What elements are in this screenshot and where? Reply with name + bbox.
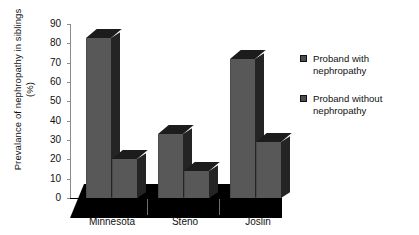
bar-front-face <box>184 171 210 198</box>
y-axis-line <box>70 24 71 199</box>
legend-label-line2: nephropathy <box>313 105 366 116</box>
x-axis-line <box>70 198 282 199</box>
y-tick-80: 80 <box>67 43 71 44</box>
legend-label: Proband with nephropathy <box>313 53 369 76</box>
y-tick-10: 10 <box>67 179 71 180</box>
bar-joslin-without-nephropathy <box>256 133 281 198</box>
legend-swatch-icon <box>300 55 307 62</box>
legend-label: Proband without nephropathy <box>313 93 382 116</box>
y-tick-50: 50 <box>67 101 71 102</box>
plot-area: 90 80 70 60 50 40 30 20 10 0 <box>70 20 282 202</box>
legend-label-line1: Proband without <box>313 93 382 104</box>
y-tick-60: 60 <box>67 82 71 83</box>
bar-side-face <box>137 153 146 198</box>
y-tick-40: 40 <box>67 121 71 122</box>
bar-steno-with-nephropathy <box>158 125 183 198</box>
legend-swatch-icon <box>300 95 307 102</box>
bar-side-face <box>281 136 290 198</box>
bar-front-face <box>86 38 112 198</box>
bar-minnesota-with-nephropathy <box>86 29 111 198</box>
y-tick-70: 70 <box>67 63 71 64</box>
x-label-joslin: Joslin <box>245 216 271 227</box>
y-axis-title: Prevalance of nephropathy in siblings (%… <box>12 5 35 175</box>
legend-item-proband-with-nephropathy[interactable]: Proband with nephropathy <box>300 53 418 76</box>
y-tick-30: 30 <box>67 140 71 141</box>
bar-chart-figure: Prevalance of nephropathy in siblings (%… <box>0 0 419 235</box>
x-tick-1 <box>147 199 148 215</box>
bar-steno-without-nephropathy <box>184 162 209 198</box>
bar-front-face <box>158 134 184 198</box>
legend-item-proband-without-nephropathy[interactable]: Proband without nephropathy <box>300 93 418 116</box>
x-label-minnesota: Minnesota <box>89 216 135 227</box>
bar-joslin-with-nephropathy <box>230 50 255 198</box>
bar-front-face <box>112 159 138 198</box>
bar-front-face <box>256 142 282 198</box>
chart-legend: Proband with nephropathy Proband without… <box>300 53 418 133</box>
y-tick-20: 20 <box>67 159 71 160</box>
legend-label-line1: Proband with <box>313 53 369 64</box>
bar-front-face <box>230 59 256 198</box>
x-tick-2 <box>219 199 220 215</box>
bar-minnesota-without-nephropathy <box>112 150 137 198</box>
y-tick-90: 90 <box>67 24 71 25</box>
legend-label-line2: nephropathy <box>313 65 366 76</box>
x-label-steno: Steno <box>172 216 198 227</box>
